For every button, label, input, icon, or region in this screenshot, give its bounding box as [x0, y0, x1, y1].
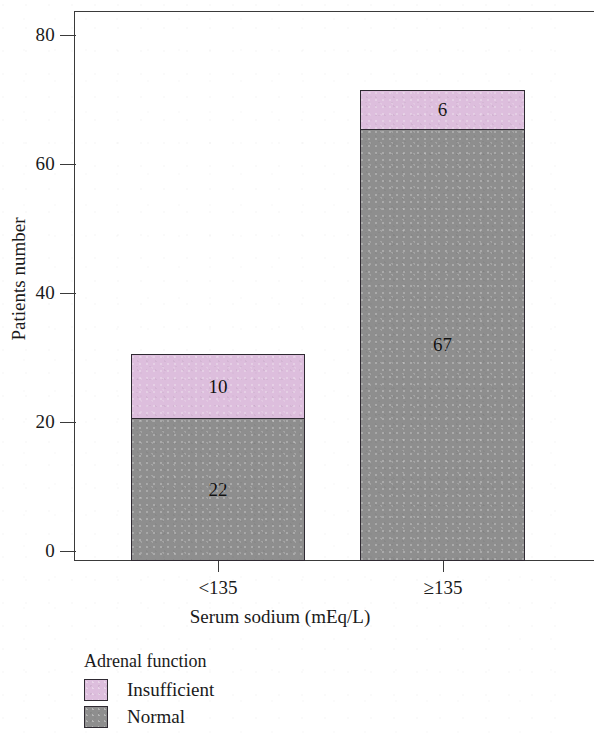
- y-axis-tick-label-80: 80: [35, 25, 55, 44]
- bar-stack-gte135: 6 67: [360, 90, 525, 561]
- y-axis-tick-40: [60, 293, 76, 294]
- y-axis-tick-label-60: 60: [35, 154, 55, 173]
- x-axis-title: Serum sodium (mEq/L): [0, 606, 560, 628]
- bar-value-label: 6: [438, 99, 448, 121]
- bar-value-label: 22: [209, 479, 228, 501]
- x-axis-tick-label-lt135: <135: [158, 577, 278, 599]
- y-axis-tick-label-0: 0: [45, 541, 55, 560]
- legend: Adrenal function Insufficient Normal: [82, 651, 214, 730]
- y-axis-tick-label-20: 20: [35, 412, 55, 431]
- x-axis-tick-label-gte135: ≥135: [383, 577, 503, 599]
- legend-swatch-normal-icon: [84, 706, 108, 728]
- legend-title: Adrenal function: [84, 651, 214, 672]
- bar-segment-normal-gte135: 67: [360, 129, 525, 561]
- bar-stack-lt135: 10 22: [131, 354, 305, 561]
- bar-value-label: 67: [433, 334, 452, 356]
- bar-segment-normal-lt135: 22: [131, 418, 305, 561]
- y-axis-title: Patients number: [8, 194, 30, 364]
- legend-item-normal: Normal: [82, 703, 214, 730]
- legend-label-insufficient: Insufficient: [127, 679, 214, 701]
- legend-item-insufficient: Insufficient: [82, 676, 214, 703]
- y-axis-tick-60: [60, 164, 76, 165]
- y-axis-tick-20: [60, 422, 76, 423]
- bar-segment-insufficient-lt135: 10: [131, 354, 305, 419]
- y-axis-tick-0: [60, 551, 76, 552]
- y-axis-tick-label-40: 40: [35, 283, 55, 302]
- bar-value-label: 10: [209, 376, 228, 398]
- x-axis-tick-gte135: [443, 561, 444, 572]
- legend-swatch-insufficient-icon: [84, 679, 108, 701]
- x-axis-tick-lt135: [218, 561, 219, 572]
- bar-segment-insufficient-gte135: 6: [360, 90, 525, 130]
- y-axis-tick-80: [60, 35, 76, 36]
- legend-label-normal: Normal: [127, 706, 185, 728]
